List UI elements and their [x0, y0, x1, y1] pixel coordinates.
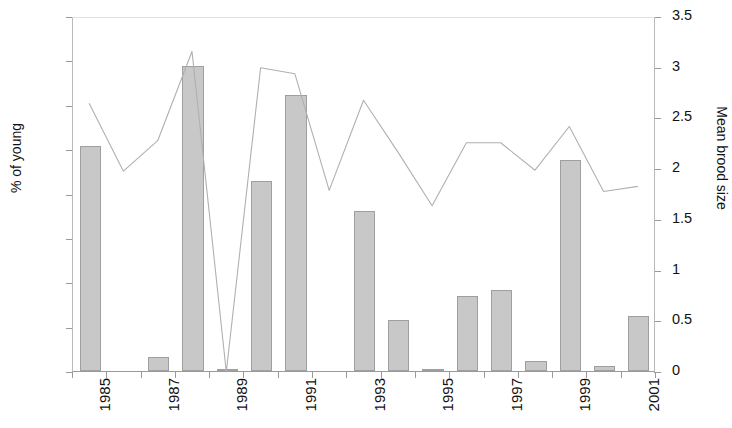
x-axis-tick-mark	[209, 372, 210, 378]
y-axis-right-tick-label: 3	[672, 58, 732, 74]
bar	[182, 66, 203, 371]
bar	[285, 95, 306, 371]
y-axis-right-tick-label: 1.5	[672, 210, 732, 226]
y-axis-right-tick-mark	[654, 271, 661, 272]
x-axis-tick-mark	[346, 372, 347, 378]
y-axis-right-tick-mark	[654, 68, 661, 69]
y-axis-right-tick-label: 0	[672, 362, 732, 378]
y-axis-right-tick-label: 3.5	[672, 7, 732, 23]
bar	[251, 181, 272, 371]
y-axis-right-tick-label: 2.5	[672, 108, 732, 124]
x-axis-tick-label: 1995	[439, 378, 456, 411]
bar	[80, 146, 101, 371]
x-axis-tick-label: 1993	[371, 378, 388, 411]
x-axis-tick-label: 1987	[165, 378, 182, 411]
x-axis-tick-mark	[621, 372, 622, 378]
x-axis-tick-mark	[278, 372, 279, 378]
bar	[148, 357, 169, 371]
x-axis-tick-label: 1991	[302, 378, 319, 411]
bar	[388, 320, 409, 371]
bar	[525, 361, 546, 371]
x-axis-tick-mark	[72, 372, 73, 378]
x-axis-tick-mark	[141, 372, 142, 378]
x-axis-tick-mark	[415, 372, 416, 378]
y-axis-right-tick-mark	[654, 118, 661, 119]
bar	[457, 296, 478, 371]
bar	[354, 211, 375, 371]
bar	[217, 369, 238, 371]
bar	[491, 290, 512, 371]
y-axis-left-title: % of young	[8, 98, 24, 218]
x-axis-tick-label: 1989	[233, 378, 250, 411]
y-axis-right-tick-mark	[654, 321, 661, 322]
plot-area	[72, 17, 655, 372]
x-axis-tick-mark	[484, 372, 485, 378]
x-axis-tick-label: 1985	[96, 378, 113, 411]
y-axis-right-tick-mark	[654, 220, 661, 221]
y-axis-right-tick-label: 1	[672, 261, 732, 277]
x-axis-tick-mark	[552, 372, 553, 378]
bar	[628, 316, 649, 371]
y-axis-right-tick-label: 0.5	[672, 311, 732, 327]
y-axis-right-tick-label: 2	[672, 159, 732, 175]
bar	[594, 366, 615, 371]
y-axis-right-tick-mark	[654, 17, 661, 18]
x-axis-tick-label: 1999	[576, 378, 593, 411]
x-axis-tick-label: 1997	[508, 378, 525, 411]
y-axis-right-tick-mark	[654, 169, 661, 170]
bar	[560, 160, 581, 371]
x-axis-tick-label: 2001	[645, 378, 662, 411]
bar	[422, 369, 443, 371]
